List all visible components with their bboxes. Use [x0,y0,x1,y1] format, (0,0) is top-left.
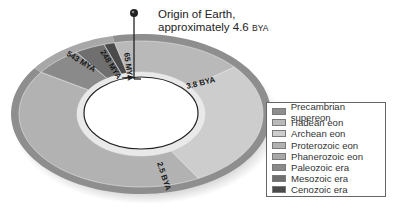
center-hole [84,77,198,149]
legend-item-cenozoic: Cenozoic era [272,184,385,195]
origin-of-earth-callout: Origin of Earth, approximately 4.6 BYA [158,8,268,35]
legend-item-archean: Archean eon [272,128,385,139]
legend-swatch [272,130,286,137]
legend-item-phanerozoic: Phanerozoic eon [272,151,385,162]
origin-pin-highlight [132,11,135,14]
callout-line-1: Origin of Earth, [158,8,268,21]
legend-item-mesozoic: Mesozoic era [272,173,385,184]
legend-swatch [272,153,286,160]
legend-item-precambrian: Precambrian supereon [272,106,385,117]
legend-swatch [272,108,286,115]
legend-item-paleozoic: Paleozoic era [272,162,385,173]
legend-swatch [272,164,286,171]
legend-swatch [272,186,286,193]
legend-swatch [272,142,286,149]
legend-swatch [272,119,286,126]
legend: Precambrian supereon Hadean eon Archean … [266,102,386,197]
callout-line-2: approximately 4.6 BYA [158,21,268,35]
origin-pin-icon [130,9,138,17]
legend-swatch [272,175,286,182]
legend-item-proterozoic: Proterozoic eon [272,140,385,151]
